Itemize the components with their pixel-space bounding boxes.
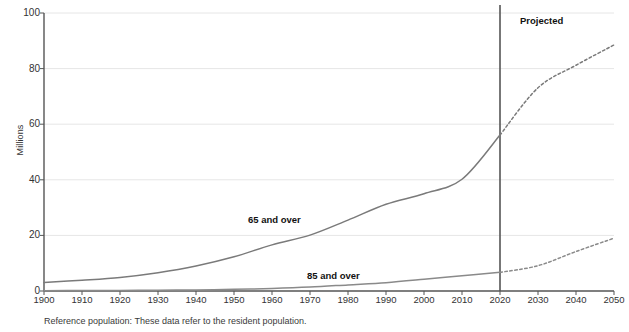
x-axis-tick-label: 1940 xyxy=(176,295,216,305)
x-axis-tick-label: 1910 xyxy=(62,295,102,305)
projected-annotation-label: Projected xyxy=(520,15,563,26)
x-axis-tick-label: 2000 xyxy=(404,295,444,305)
y-axis-tick-label: 40 xyxy=(4,175,40,185)
x-axis-tick-label: 2030 xyxy=(518,295,558,305)
x-axis-tick-label: 2040 xyxy=(556,295,596,305)
series-line-85-and-over xyxy=(44,272,500,290)
x-axis-tick-label: 1970 xyxy=(290,295,330,305)
x-axis-tick-label: 1920 xyxy=(100,295,140,305)
series-line-projected-85-and-over xyxy=(500,238,614,272)
x-axis-tick-label: 2020 xyxy=(480,295,520,305)
chart-footnote: Reference population: These data refer t… xyxy=(44,316,307,326)
series-line-65-and-over xyxy=(44,135,500,282)
x-axis-tick-label: 1960 xyxy=(252,295,292,305)
series-label-65-and-over: 65 and over xyxy=(248,214,301,225)
x-axis-tick-label: 1980 xyxy=(328,295,368,305)
x-axis-tick-label: 1930 xyxy=(138,295,178,305)
y-axis-tick-label: 60 xyxy=(4,119,40,129)
series-line-projected-65-and-over xyxy=(500,45,614,135)
x-axis-tick-label: 1900 xyxy=(24,295,64,305)
x-axis-tick-label: 1950 xyxy=(214,295,254,305)
series-label-85-and-over: 85 and over xyxy=(307,270,360,281)
y-axis-tick-labels: 020406080100 xyxy=(0,0,40,332)
x-axis-tick-label: 2050 xyxy=(594,295,629,305)
y-axis-tick-label: 100 xyxy=(4,8,40,18)
x-axis-tick-label: 2010 xyxy=(442,295,482,305)
x-axis-tick-label: 1990 xyxy=(366,295,406,305)
y-axis-tick-label: 80 xyxy=(4,64,40,74)
y-axis-tick-label: 20 xyxy=(4,230,40,240)
